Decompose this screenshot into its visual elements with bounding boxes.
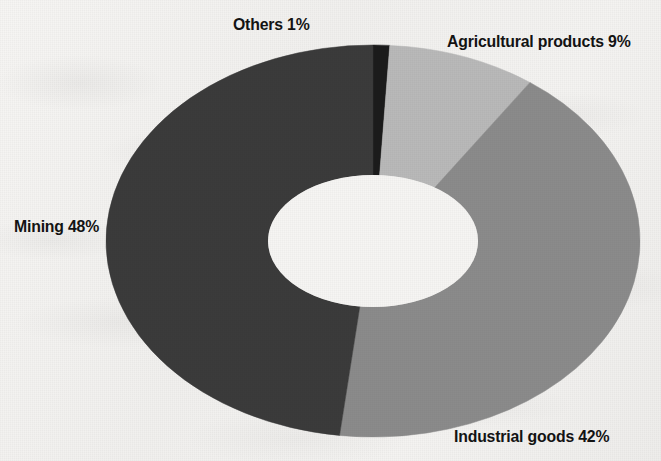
slice-label-industrial-goods: Industrial goods 42% [454, 428, 609, 445]
chart-page: Others 1% Agricultural products 9% Indus… [0, 0, 661, 461]
donut-slice-group [106, 45, 640, 437]
slice-label-others: Others 1% [233, 16, 310, 33]
slice-label-agricultural-products: Agricultural products 9% [447, 33, 631, 50]
slice-label-mining: Mining 48% [14, 218, 99, 235]
donut-center-hole [268, 175, 478, 307]
